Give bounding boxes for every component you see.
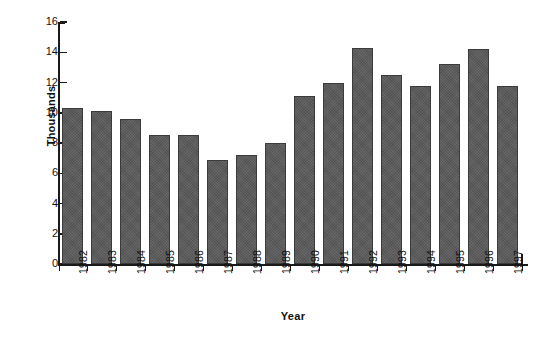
x-axis-tick-label: 1987 xyxy=(223,250,234,274)
bar xyxy=(149,135,170,264)
x-axis-tick-label: 1991 xyxy=(339,250,350,274)
bar xyxy=(323,83,344,265)
x-axis-tick-label: 1993 xyxy=(397,250,408,274)
bar xyxy=(439,64,460,264)
x-axis-tick-label: 1992 xyxy=(368,250,379,274)
bar xyxy=(207,160,228,264)
bar xyxy=(497,86,518,264)
x-axis-tick-label: 1997 xyxy=(513,250,524,274)
x-axis-tick-label: 1990 xyxy=(310,250,321,274)
x-axis-tick-label: 1996 xyxy=(484,250,495,274)
bar xyxy=(294,96,315,264)
x-axis-tick xyxy=(59,266,61,271)
bar-chart-figure: Thousands 0246810121416 1982198319841985… xyxy=(0,0,548,338)
y-axis-tick-label: 14 xyxy=(18,46,58,57)
bar xyxy=(91,111,112,264)
x-axis-tick-label: 1985 xyxy=(165,250,176,274)
y-axis-tick-label: 8 xyxy=(18,137,58,148)
x-axis-tick-label: 1984 xyxy=(136,250,147,274)
bar xyxy=(178,135,199,264)
x-axis-tick-label: 1983 xyxy=(107,250,118,274)
bar xyxy=(468,49,489,264)
bar xyxy=(381,75,402,264)
bar xyxy=(120,119,141,264)
bar xyxy=(62,108,83,264)
x-axis-tick-label: 1989 xyxy=(281,250,292,274)
x-axis-title: Year xyxy=(58,310,528,322)
y-axis-tick-label: 10 xyxy=(18,107,58,118)
y-axis-tick-label: 4 xyxy=(18,198,58,209)
x-axis-tick-label: 1986 xyxy=(194,250,205,274)
y-axis-tick-labels: 0246810121416 xyxy=(12,22,58,266)
y-axis-tick-label: 2 xyxy=(18,228,58,239)
y-axis-tick-label: 16 xyxy=(18,16,58,27)
x-axis-tick-label: 1982 xyxy=(78,250,89,274)
bar xyxy=(265,143,286,264)
plot-area: 0246810121416 19821983198419851986198719… xyxy=(58,22,528,266)
bar xyxy=(236,155,257,264)
bars-layer xyxy=(58,22,528,266)
x-axis-tick-label: 1994 xyxy=(426,250,437,274)
y-axis-tick-label: 12 xyxy=(18,77,58,88)
x-axis-tick-label: 1988 xyxy=(252,250,263,274)
y-axis-tick-label: 0 xyxy=(18,258,58,269)
y-axis-tick-label: 6 xyxy=(18,167,58,178)
x-axis-tick-label: 1995 xyxy=(455,250,466,274)
bar xyxy=(352,48,373,264)
bar xyxy=(410,86,431,264)
